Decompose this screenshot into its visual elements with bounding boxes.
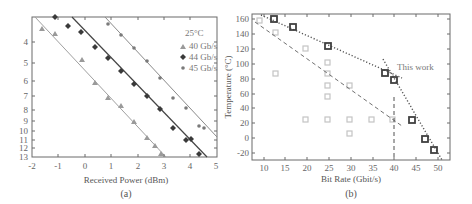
circle-marker-icon [181, 66, 185, 70]
x-tick-label: 1 [109, 161, 114, 171]
plot-frame [252, 14, 450, 160]
diamond-marker-icon [180, 54, 186, 60]
y-tick-label: 0 [245, 133, 250, 143]
y-tick-labels: 4 5 6 7 8 9 10 11 12 13 [19, 37, 29, 162]
y-tick-label: 9 [24, 116, 29, 126]
y-tick-label: 80 [240, 74, 250, 84]
x-tick-label: -1 [54, 161, 62, 171]
x-tick-label: 10 [260, 163, 270, 173]
x-axis-ticks [264, 14, 438, 160]
y-tick-label: 20 [240, 118, 250, 128]
y-tick-label: 7 [24, 91, 29, 101]
x-axis-label: Received Power (dBm) [84, 175, 168, 185]
series-45gbs-markers [106, 22, 206, 130]
x-tick-label: 0 [83, 161, 88, 171]
trend-line-prior-art [255, 22, 402, 126]
legend: 25°C 40 Gb/s 44 Gb/s 45 Gb/s [180, 28, 218, 73]
y-tick-label: 120 [236, 44, 250, 54]
series-this-work-markers [271, 16, 437, 153]
x-tick-labels: 10 15 20 25 30 35 40 45 50 [260, 163, 444, 173]
y-tick-label: 140 [236, 29, 250, 39]
x-tick-label: 3 [162, 161, 167, 171]
x-tick-label: 40 [390, 163, 400, 173]
legend-title: 25°C [185, 28, 204, 38]
triangle-marker-icon [180, 44, 186, 49]
fit-line-40 [35, 17, 166, 157]
trend-line-this-work-steep [383, 59, 442, 160]
x-tick-label: 5 [214, 161, 219, 171]
series-other-markers [257, 18, 395, 136]
chart-a: 4 5 6 7 8 9 10 11 12 13 -2 -1 0 1 2 3 4 … [0, 0, 236, 204]
y-tick-label: -20 [237, 148, 249, 158]
legend-label-44: 44 Gb/s [189, 52, 218, 62]
y-tick-label: 8 [24, 105, 29, 115]
x-tick-label: 20 [303, 163, 313, 173]
x-tick-label: -2 [28, 161, 36, 171]
x-tick-label: 45 [412, 163, 422, 173]
y-tick-labels: 160 140 120 100 80 60 40 20 0 -20 [236, 14, 250, 158]
y-tick-label: 60 [240, 89, 250, 99]
y-axis-label-temperature: Temperature (°C) [223, 55, 233, 118]
y-axis-ticks [252, 19, 450, 153]
series-44gbs-markers [52, 14, 202, 157]
legend-label-45: 45 Gb/s [189, 63, 218, 73]
x-axis-label: Bit Rate (Gbit/s) [321, 174, 381, 184]
chart-b-svg: This work [236, 0, 472, 204]
caption-b: (b) [345, 188, 357, 200]
annotation-this-work: This work [397, 62, 434, 72]
legend-label-40: 40 Gb/s [189, 41, 218, 51]
fit-line-44 [72, 17, 207, 157]
x-tick-label: 25 [325, 163, 335, 173]
x-tick-label: 4 [188, 161, 193, 171]
chart-b: This work [236, 0, 472, 204]
x-tick-labels: -2 -1 0 1 2 3 4 5 [28, 161, 219, 171]
y-tick-label: 4 [24, 37, 29, 47]
y-tick-label: 160 [236, 14, 250, 24]
x-tick-label: 50 [434, 163, 444, 173]
y-tick-label: 100 [236, 59, 250, 69]
x-tick-label: 30 [347, 163, 357, 173]
y-tick-label: 5 [24, 58, 29, 68]
y-tick-label: 40 [240, 103, 250, 113]
x-tick-label: 2 [136, 161, 141, 171]
x-tick-label: 35 [369, 163, 379, 173]
series-40gbs-markers [39, 26, 164, 156]
x-tick-label: 15 [281, 163, 291, 173]
y-tick-label: 6 [24, 76, 29, 86]
y-tick-label: 13 [19, 152, 29, 162]
caption-a: (a) [120, 188, 131, 200]
chart-a-svg: 4 5 6 7 8 9 10 11 12 13 -2 -1 0 1 2 3 4 … [0, 0, 236, 204]
